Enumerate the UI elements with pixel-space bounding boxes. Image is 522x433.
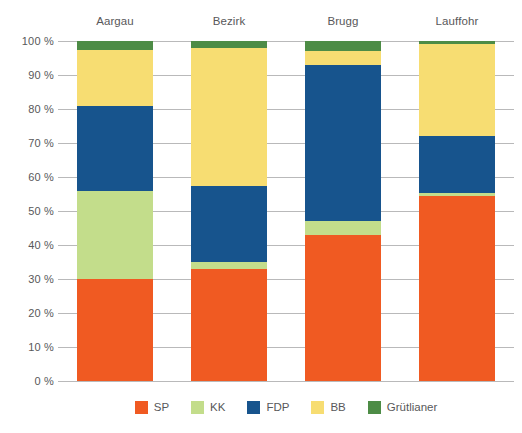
stacked-bar-brugg[interactable]: [305, 41, 381, 381]
legend-swatch-fdp: [247, 401, 260, 414]
legend-item-grütlianer[interactable]: Grütlianer: [368, 401, 438, 414]
bar-segment-aargau-sp[interactable]: [77, 279, 153, 381]
legend-item-kk[interactable]: KK: [191, 401, 225, 414]
bar-segment-aargau-kk[interactable]: [77, 191, 153, 279]
legend-swatch-kk: [191, 401, 204, 414]
bar-segment-aargau-bb[interactable]: [77, 50, 153, 106]
bar-segment-lauffohr-bb[interactable]: [419, 44, 495, 136]
legend: SPKKFDPBBGrütlianer: [58, 396, 514, 418]
y-tick-label-10: 10 %: [28, 341, 54, 353]
category-title-row: AargauBezirkBruggLauffohr: [58, 12, 514, 34]
bar-slot-brugg: [286, 41, 400, 381]
legend-label-bb: BB: [330, 401, 345, 413]
y-tick-label-60: 60 %: [28, 171, 54, 183]
bar-segment-bezirk-kk[interactable]: [191, 262, 267, 269]
legend-swatch-grütlianer: [368, 401, 381, 414]
category-label-bezirk: Bezirk: [172, 12, 286, 34]
bar-segment-bezirk-bb[interactable]: [191, 48, 267, 186]
bar-segment-brugg-fdp[interactable]: [305, 65, 381, 221]
y-tick-label-100: 100 %: [22, 35, 54, 47]
bar-slot-aargau: [58, 41, 172, 381]
legend-item-sp[interactable]: SP: [135, 401, 169, 414]
gridline-0: [58, 381, 514, 382]
bar-segment-bezirk-sp[interactable]: [191, 269, 267, 381]
bar-segment-lauffohr-fdp[interactable]: [419, 136, 495, 193]
bar-segment-lauffohr-sp[interactable]: [419, 196, 495, 381]
y-tick-label-90: 90 %: [28, 69, 54, 81]
category-label-lauffohr: Lauffohr: [400, 12, 514, 34]
category-label-brugg: Brugg: [286, 12, 400, 34]
bar-segment-brugg-sp[interactable]: [305, 235, 381, 381]
y-tick-label-80: 80 %: [28, 103, 54, 115]
bar-segment-aargau-grütlianer[interactable]: [77, 41, 153, 50]
bar-segment-brugg-kk[interactable]: [305, 221, 381, 235]
legend-label-sp: SP: [154, 401, 169, 413]
bar-segment-aargau-fdp[interactable]: [77, 106, 153, 191]
stacked-bar-aargau[interactable]: [77, 41, 153, 381]
bar-segment-brugg-bb[interactable]: [305, 51, 381, 65]
bar-segment-bezirk-fdp[interactable]: [191, 186, 267, 263]
y-tick-label-30: 30 %: [28, 273, 54, 285]
y-axis-labels: 0 %10 %20 %30 %40 %50 %60 %70 %80 %90 %1…: [0, 41, 54, 381]
legend-item-bb[interactable]: BB: [311, 401, 345, 414]
bar-slot-bezirk: [172, 41, 286, 381]
plot-area: [58, 41, 514, 381]
legend-swatch-sp: [135, 401, 148, 414]
y-tick-label-50: 50 %: [28, 205, 54, 217]
legend-swatch-bb: [311, 401, 324, 414]
legend-label-grütlianer: Grütlianer: [387, 401, 438, 413]
bar-group: [58, 41, 514, 381]
y-tick-label-0: 0 %: [34, 375, 54, 387]
bar-segment-brugg-grütlianer[interactable]: [305, 41, 381, 51]
y-tick-label-20: 20 %: [28, 307, 54, 319]
stacked-bar-chart: AargauBezirkBruggLauffohr 0 %10 %20 %30 …: [0, 0, 522, 433]
y-tick-label-70: 70 %: [28, 137, 54, 149]
bar-slot-lauffohr: [400, 41, 514, 381]
legend-label-kk: KK: [210, 401, 225, 413]
y-tick-label-40: 40 %: [28, 239, 54, 251]
stacked-bar-bezirk[interactable]: [191, 41, 267, 381]
stacked-bar-lauffohr[interactable]: [419, 41, 495, 381]
legend-item-fdp[interactable]: FDP: [247, 401, 289, 414]
legend-label-fdp: FDP: [266, 401, 289, 413]
bar-segment-bezirk-grütlianer[interactable]: [191, 41, 267, 48]
category-label-aargau: Aargau: [58, 12, 172, 34]
